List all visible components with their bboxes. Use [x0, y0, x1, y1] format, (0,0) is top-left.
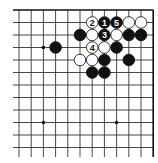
go-board: 21534	[0, 0, 158, 163]
move-number-label: 4	[90, 43, 95, 53]
black-stone	[99, 67, 111, 79]
black-stone: 1	[99, 17, 111, 29]
white-stone	[123, 17, 135, 29]
white-stone	[74, 54, 86, 66]
black-stone	[99, 54, 111, 66]
black-stone	[111, 42, 123, 54]
black-stone	[123, 29, 135, 41]
black-stone: 3	[99, 29, 111, 41]
move-number-label: 2	[90, 18, 95, 28]
white-stone: 2	[86, 17, 98, 29]
black-stone	[123, 54, 135, 66]
black-stone	[74, 29, 86, 41]
black-stone	[86, 67, 98, 79]
white-stone	[111, 29, 123, 41]
white-stone	[99, 42, 111, 54]
white-stone	[86, 54, 98, 66]
move-number-label: 5	[114, 18, 119, 28]
hoshi-point	[42, 46, 46, 50]
hoshi-point	[115, 121, 119, 125]
hoshi-point	[42, 121, 46, 125]
black-stone	[50, 42, 62, 54]
black-stone: 5	[111, 17, 123, 29]
move-number-label: 3	[102, 30, 107, 40]
white-stone	[86, 29, 98, 41]
white-stone: 4	[86, 42, 98, 54]
move-number-label: 1	[102, 18, 107, 28]
black-stone	[135, 29, 147, 41]
white-stone	[135, 17, 147, 29]
